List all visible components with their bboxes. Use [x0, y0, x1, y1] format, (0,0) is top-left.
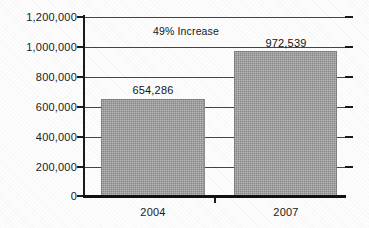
x-tick-mark-center: [214, 198, 216, 203]
y-tick-label-800000: 800,000: [3, 71, 77, 83]
y-tick-mark-right-1200000: [345, 16, 353, 18]
y-tick-label-600000: 600,000: [3, 101, 77, 113]
y-tick-mark-right-600000: [345, 106, 353, 108]
bar-2007: [234, 51, 337, 197]
increase-annotation: 49% Increase: [153, 25, 219, 37]
y-axis-tick-labels: 1,200,000 1,000,000 800,000 600,000 400,…: [0, 0, 77, 228]
value-label-2007: 972,539: [265, 37, 306, 49]
y-tick-label-1000000: 1,000,000: [3, 41, 77, 53]
y-tick-label-0: 0: [3, 190, 77, 202]
bar-chart-figure: 1,200,000 1,000,000 800,000 600,000 400,…: [0, 0, 369, 228]
y-tick-label-400000: 400,000: [3, 131, 77, 143]
y-tick-label-1200000: 1,200,000: [3, 11, 77, 23]
y-tick-label-200000: 200,000: [3, 161, 77, 173]
y-tick-mark-right-800000: [345, 76, 353, 78]
bar-2004: [101, 99, 205, 197]
y-axis-spine: [83, 15, 85, 198]
y-tick-mark-right-1000000: [345, 46, 353, 48]
x-tick-label-2004: 2004: [140, 206, 165, 218]
value-label-2004: 654,286: [132, 84, 173, 96]
y-tick-mark-right-400000: [345, 136, 353, 138]
y-tick-mark-right-200000: [345, 166, 353, 168]
gridline-1200000: [84, 17, 345, 18]
x-tick-label-2007: 2007: [273, 206, 298, 218]
